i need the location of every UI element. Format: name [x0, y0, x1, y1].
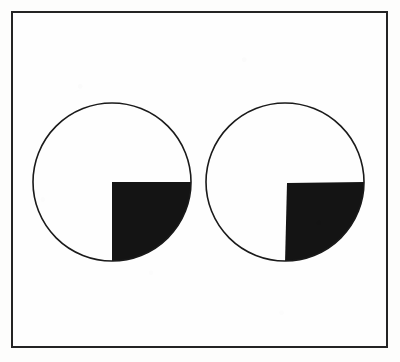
figure-frame: [11, 11, 388, 348]
figure-stage: [13, 13, 386, 346]
right-black-quarter-sector: [285, 182, 366, 263]
right-circle-group: [206, 103, 366, 263]
left-circle-group: [33, 103, 193, 263]
two-circles-diagram: [13, 13, 386, 346]
left-black-quarter-sector: [112, 182, 193, 263]
figure-canvas: [0, 0, 400, 362]
